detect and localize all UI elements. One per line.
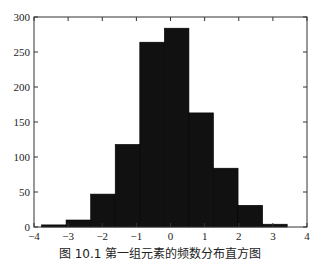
y-tick-label: 250 — [14, 46, 31, 58]
histogram-bar — [238, 205, 263, 227]
x-tick-label: 3 — [270, 230, 276, 242]
histogram-bar — [140, 42, 165, 227]
histogram-bar — [213, 168, 238, 227]
x-tick-label: 2 — [236, 230, 242, 242]
x-tick-label: −3 — [62, 230, 74, 242]
x-tick-label: 0 — [168, 230, 174, 242]
figure-caption: 图 10.1 第一组元素的频数分布直方图 — [0, 244, 320, 261]
y-tick-label: 0 — [25, 221, 31, 233]
x-tick-label: 4 — [304, 230, 310, 242]
x-tick-label: 1 — [202, 230, 208, 242]
x-tick-label: −1 — [131, 230, 143, 242]
y-tick-label: 100 — [14, 151, 31, 163]
histogram-bar — [66, 220, 91, 227]
y-tick-label: 150 — [14, 116, 31, 128]
histogram-bar — [164, 28, 189, 227]
y-tick-label: 50 — [19, 186, 31, 198]
histogram-bars — [42, 28, 288, 227]
histogram-bar — [189, 113, 214, 227]
y-tick-label: 200 — [14, 81, 31, 93]
x-tick-label: −2 — [96, 230, 108, 242]
histogram-bar — [91, 194, 116, 227]
y-tick-label: 300 — [14, 11, 31, 23]
histogram-bar — [115, 144, 140, 227]
